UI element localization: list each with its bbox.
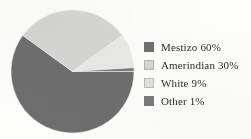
chart-legend: Mestizo 60% Amerindian 30% White 9% Othe…	[144, 38, 251, 110]
pie-slices	[11, 10, 134, 133]
pie-chart-figure: Mestizo 60% Amerindian 30% White 9% Othe…	[0, 0, 251, 139]
pie-chart	[11, 8, 134, 135]
legend-swatch-amerindian	[144, 60, 154, 70]
legend-swatch-other	[144, 96, 154, 106]
legend-item-mestizo[interactable]: Mestizo 60%	[144, 38, 251, 56]
legend-swatch-white	[144, 78, 154, 88]
legend-swatch-mestizo	[144, 42, 154, 52]
legend-label-white: White 9%	[161, 77, 207, 89]
legend-label-amerindian: Amerindian 30%	[161, 59, 239, 71]
pie-chart-svg	[11, 8, 134, 135]
legend-label-mestizo: Mestizo 60%	[161, 41, 221, 53]
legend-label-other: Other 1%	[161, 95, 205, 107]
legend-item-white[interactable]: White 9%	[144, 74, 251, 92]
legend-item-amerindian[interactable]: Amerindian 30%	[144, 56, 251, 74]
legend-item-other[interactable]: Other 1%	[144, 92, 251, 110]
